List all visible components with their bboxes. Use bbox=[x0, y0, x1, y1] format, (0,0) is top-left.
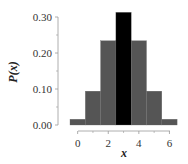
bar-x-4 bbox=[131, 41, 146, 125]
x-tick-label: 4 bbox=[136, 137, 142, 149]
x-tick-label: 6 bbox=[167, 137, 173, 149]
x-axis-label: x bbox=[120, 146, 127, 160]
bar-x-6 bbox=[162, 119, 177, 125]
bar-x-0 bbox=[70, 119, 85, 125]
bar-x-3 bbox=[116, 12, 131, 125]
y-tick-label: 0.00 bbox=[33, 119, 53, 131]
bar-x-5 bbox=[147, 91, 162, 125]
x-tick-label: 0 bbox=[75, 137, 81, 149]
bar-x-2 bbox=[101, 41, 116, 125]
y-tick-label: 0.10 bbox=[33, 83, 53, 95]
probability-bar-chart: 0.000.100.200.30 0246 x P(x) bbox=[0, 0, 188, 164]
bars bbox=[70, 12, 177, 125]
y-tick-label: 0.30 bbox=[33, 11, 53, 23]
x-tick-label: 2 bbox=[106, 137, 112, 149]
y-tick-label: 0.20 bbox=[33, 47, 53, 59]
bar-x-1 bbox=[85, 91, 100, 125]
y-axis-label: P(x) bbox=[6, 61, 20, 82]
y-ticks: 0.000.100.200.30 bbox=[33, 11, 58, 131]
